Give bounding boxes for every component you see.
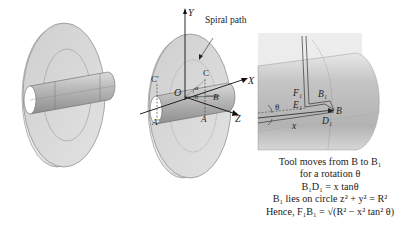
label-e1: E₁ — [292, 100, 302, 110]
label-y-axis: Y — [188, 7, 195, 18]
label-a: A — [200, 114, 207, 124]
label-z-axis: Z — [235, 113, 241, 124]
label-b: B — [213, 92, 219, 102]
label-d1: D₁ — [321, 116, 332, 126]
label-c-prime: C' — [151, 74, 159, 84]
caption-line-1: Tool moves from B to B₁ — [255, 156, 405, 168]
label-x-length: x — [291, 121, 297, 131]
label-a-prime: A' — [151, 117, 160, 127]
label-alpha: α — [195, 84, 199, 91]
label-f1: F₁ — [292, 88, 302, 98]
caption-line-4: B₁ lies on circle z² + y² = R² — [255, 193, 405, 205]
figure-caption: Tool moves from B to B₁ for a rotation θ… — [255, 156, 405, 218]
label-theta-right: θ — [275, 102, 279, 112]
label-x-axis: X — [247, 75, 255, 86]
label-spiral-path: Spiral path — [205, 15, 247, 25]
caption-line-5: Hence, F₁B₁ = √(R² − x² tan² θ) — [255, 206, 405, 218]
label-b-right: B — [336, 106, 342, 116]
left-disc-assembly — [22, 23, 115, 167]
label-theta-middle: θ — [195, 93, 198, 100]
label-b1: B₁ — [318, 89, 327, 99]
label-c: C — [203, 68, 209, 78]
label-origin: O — [174, 87, 181, 98]
caption-line-2: for a rotation θ — [255, 168, 405, 180]
middle-disc-assembly — [140, 8, 248, 178]
caption-line-3: B₁D₁ = x tanθ — [255, 181, 405, 193]
